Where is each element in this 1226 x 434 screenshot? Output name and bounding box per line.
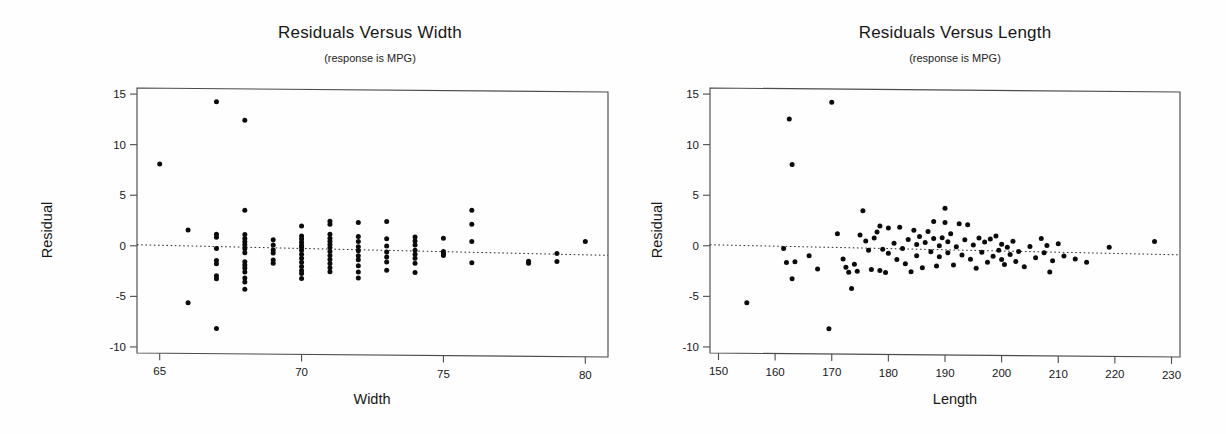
data-point bbox=[841, 257, 846, 262]
residuals-versus-width-svg: Residuals Versus Width (response is MPG)… bbox=[0, 0, 640, 434]
data-point bbox=[413, 261, 418, 266]
data-point bbox=[327, 222, 332, 227]
data-point bbox=[384, 249, 389, 254]
y-tick-label: -10 bbox=[682, 341, 699, 353]
data-point bbox=[469, 222, 474, 227]
x-tick-label: 80 bbox=[579, 369, 592, 381]
chart-panel-residuals-versus-width: Residuals Versus Width (response is MPG)… bbox=[0, 0, 640, 434]
data-point bbox=[1044, 243, 1049, 248]
data-point bbox=[356, 220, 361, 225]
chart-subtitle: (response is MPG) bbox=[324, 52, 416, 64]
data-point bbox=[242, 208, 247, 213]
data-point bbox=[792, 259, 797, 264]
data-point bbox=[242, 269, 247, 274]
data-point bbox=[384, 219, 389, 224]
data-point bbox=[979, 250, 984, 255]
data-point bbox=[356, 234, 361, 239]
x-tick-label: 200 bbox=[992, 367, 1011, 379]
y-tick-label: 0 bbox=[120, 240, 126, 252]
data-point bbox=[790, 276, 795, 281]
data-point bbox=[917, 234, 922, 239]
data-point bbox=[1073, 257, 1078, 262]
x-tick-label: 150 bbox=[709, 365, 728, 377]
data-point bbox=[356, 257, 361, 262]
y-tick-label: 10 bbox=[113, 139, 126, 151]
data-point bbox=[784, 260, 789, 265]
data-point bbox=[583, 239, 588, 244]
data-point bbox=[1008, 252, 1013, 257]
x-tick-label: 170 bbox=[822, 366, 841, 378]
x-axis-label: Length bbox=[933, 391, 977, 407]
figure-sheet: Residuals Versus Width (response is MPG)… bbox=[0, 0, 1226, 434]
data-point bbox=[815, 266, 820, 271]
data-point bbox=[271, 261, 276, 266]
data-point bbox=[894, 257, 899, 262]
data-point bbox=[299, 223, 304, 228]
data-point bbox=[441, 253, 446, 258]
data-point bbox=[991, 254, 996, 259]
data-point bbox=[356, 263, 361, 268]
data-point bbox=[965, 222, 970, 227]
data-point bbox=[186, 300, 191, 305]
data-point bbox=[1013, 259, 1018, 264]
data-point bbox=[886, 251, 891, 256]
data-point bbox=[877, 268, 882, 273]
data-point bbox=[1042, 250, 1047, 255]
x-tick-label: 180 bbox=[879, 367, 898, 379]
y-tick-label: -5 bbox=[689, 290, 699, 302]
chart-title: Residuals Versus Width bbox=[278, 23, 462, 42]
data-point bbox=[469, 239, 474, 244]
data-point bbox=[384, 236, 389, 241]
x-tick-label: 70 bbox=[295, 366, 308, 378]
data-point bbox=[999, 242, 1004, 247]
data-point bbox=[1022, 264, 1027, 269]
data-point bbox=[931, 219, 936, 224]
data-point bbox=[988, 237, 993, 242]
data-point bbox=[413, 256, 418, 261]
data-point bbox=[1152, 239, 1157, 244]
data-point bbox=[242, 118, 247, 123]
data-point bbox=[974, 266, 979, 271]
data-point bbox=[926, 229, 931, 234]
y-tick-label: -5 bbox=[116, 290, 126, 302]
data-point bbox=[897, 225, 902, 230]
data-point bbox=[242, 250, 247, 255]
data-point bbox=[976, 235, 981, 240]
data-point bbox=[1039, 236, 1044, 241]
data-point bbox=[214, 261, 219, 266]
data-point bbox=[787, 117, 792, 122]
data-point bbox=[959, 253, 964, 258]
y-axis-label: Residual bbox=[649, 202, 665, 258]
data-point bbox=[242, 280, 247, 285]
data-point bbox=[157, 162, 162, 167]
y-tick-label: 5 bbox=[693, 189, 699, 201]
data-point bbox=[937, 243, 942, 248]
data-point bbox=[356, 239, 361, 244]
x-tick-label: 230 bbox=[1162, 369, 1181, 381]
data-point bbox=[271, 237, 276, 242]
data-point bbox=[356, 276, 361, 281]
y-tick-label: 5 bbox=[120, 189, 126, 201]
data-point bbox=[948, 231, 953, 236]
data-point bbox=[242, 287, 247, 292]
x-tick-label: 220 bbox=[1105, 368, 1124, 380]
data-point bbox=[943, 206, 948, 211]
residuals-versus-length-svg: Residuals Versus Length (response is MPG… bbox=[620, 0, 1226, 434]
scatter-points bbox=[744, 100, 1157, 332]
y-axis-ticks: 151050-5-10 bbox=[109, 88, 137, 353]
data-point bbox=[469, 260, 474, 265]
data-point bbox=[214, 326, 219, 331]
data-point bbox=[971, 242, 976, 247]
data-point bbox=[957, 221, 962, 226]
data-point bbox=[920, 265, 925, 270]
data-point bbox=[886, 226, 891, 231]
data-point bbox=[892, 241, 897, 246]
y-tick-label: 15 bbox=[686, 88, 699, 100]
data-point bbox=[883, 270, 888, 275]
data-point bbox=[807, 253, 812, 258]
chart-subtitle: (response is MPG) bbox=[909, 52, 1001, 64]
data-point bbox=[1005, 245, 1010, 250]
data-point bbox=[843, 265, 848, 270]
data-point bbox=[846, 270, 851, 275]
data-point bbox=[945, 239, 950, 244]
